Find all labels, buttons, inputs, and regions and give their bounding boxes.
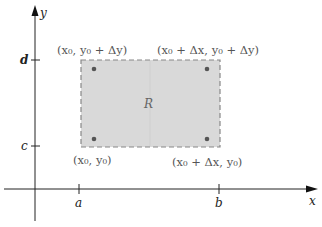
x-axis-arrow-icon <box>306 186 318 193</box>
tick-label-b: b <box>215 196 223 210</box>
label-bottom-right: (x₀ + Δx, y₀) <box>172 155 242 169</box>
point-bottom-left <box>92 137 97 142</box>
point-top-right <box>205 67 210 72</box>
diagram-canvas: y x d c a b R (x₀, y₀ + Δy) (x₀ + Δx, y₀… <box>0 0 322 227</box>
region-label: R <box>143 97 153 111</box>
label-top-left: (x₀, y₀ + Δy) <box>57 43 127 57</box>
tick-label-d: d <box>20 53 29 67</box>
label-top-right: (x₀ + Δx, y₀ + Δy) <box>157 43 259 57</box>
x-axis-label: x <box>309 194 316 208</box>
point-top-left <box>92 67 97 72</box>
tick-label-c: c <box>21 139 28 153</box>
tick-label-a: a <box>75 196 82 210</box>
y-axis-label: y <box>39 6 47 20</box>
point-bottom-right <box>205 137 210 142</box>
label-bottom-left: (x₀, y₀) <box>73 153 112 167</box>
y-axis-arrow-icon <box>32 5 39 16</box>
